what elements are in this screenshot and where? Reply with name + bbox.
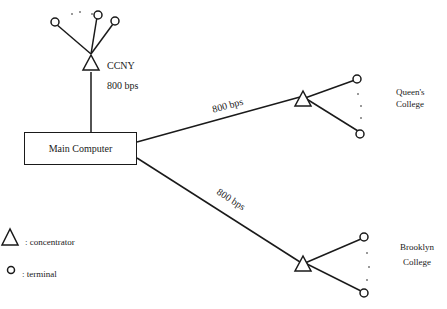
legend-terminal-label: : terminal <box>22 269 57 279</box>
queens-label-line2: College <box>396 99 424 109</box>
terminal-icon <box>111 17 119 25</box>
concentrator-icon <box>295 256 311 271</box>
legend-terminal-icon <box>8 267 15 274</box>
main-computer-node: Main Computer <box>24 132 137 165</box>
terminal-icon <box>356 130 364 138</box>
ccny-link-rate: 800 bps <box>107 80 138 91</box>
terminal-icon <box>360 289 368 297</box>
brooklyn-link <box>137 158 300 262</box>
brooklyn-label-line1: Brooklyn <box>400 242 434 252</box>
legend-concentrator-label: : concentrator <box>25 237 75 247</box>
queens-label-line1: Queen's <box>396 87 425 97</box>
ccny-label: CCNY <box>107 60 135 71</box>
concentrator-icon <box>295 91 311 106</box>
legend-concentrator-icon <box>2 229 18 245</box>
terminal-icon <box>353 75 361 83</box>
terminal-icon <box>94 11 102 19</box>
terminal-icon <box>51 18 59 26</box>
main-computer-label: Main Computer <box>49 143 113 154</box>
brooklyn-label-line2: College <box>403 257 431 267</box>
concentrator-icon <box>83 55 99 70</box>
terminal-icon <box>360 233 368 241</box>
